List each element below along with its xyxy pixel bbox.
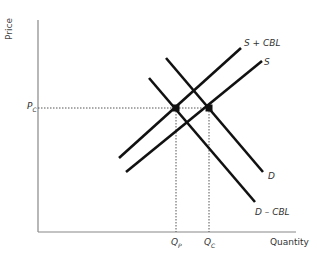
supply-curve: [126, 61, 262, 172]
demand-label: D: [268, 172, 275, 181]
equilibrium-point-consumer: [206, 105, 213, 112]
qp-label: QP: [171, 238, 182, 249]
qc-label: QC: [204, 238, 215, 249]
y-axis-label: Price: [4, 18, 14, 40]
demand-minus-cbl-label: D – CBL: [255, 208, 290, 217]
supply-label: S: [264, 58, 270, 67]
supply-plus-cbl-label: S + CBL: [244, 39, 280, 48]
price-label: PC: [27, 102, 37, 113]
equilibrium-point-private: [173, 105, 180, 112]
x-axis-label: Quantity: [270, 238, 309, 247]
supply-plus-cbl-curve: [119, 48, 241, 158]
